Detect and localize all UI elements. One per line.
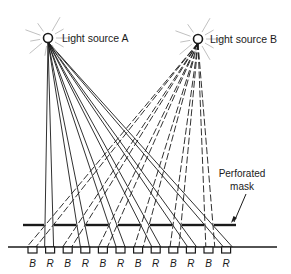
glow-ray bbox=[52, 17, 60, 31]
glow-ray bbox=[202, 46, 210, 60]
phosphor-r bbox=[46, 247, 55, 253]
phosphor-b bbox=[63, 247, 72, 253]
glow-ray bbox=[38, 23, 44, 31]
glow-ray bbox=[202, 18, 210, 32]
glow-ray bbox=[180, 40, 190, 42]
ray-b bbox=[72, 43, 198, 247]
phosphor-label: B bbox=[170, 258, 177, 269]
light-source-a-label: Light source A bbox=[62, 32, 129, 44]
ray-b bbox=[198, 43, 206, 247]
phosphor-r bbox=[151, 247, 160, 253]
phosphor-b bbox=[98, 247, 107, 253]
phosphor-label: R bbox=[187, 258, 194, 269]
glow-ray bbox=[25, 30, 40, 35]
phosphor-label: R bbox=[222, 258, 229, 269]
light-source-a: Light source A bbox=[25, 17, 128, 59]
ray-b bbox=[143, 43, 198, 247]
glow-ray bbox=[45, 46, 47, 56]
light-source-a-icon bbox=[44, 34, 53, 43]
glow-ray bbox=[175, 31, 190, 36]
phosphor-b bbox=[204, 247, 213, 253]
ray-b bbox=[98, 43, 198, 247]
glow-ray bbox=[30, 39, 40, 41]
phosphor-r bbox=[81, 247, 90, 253]
light-source-b-icon bbox=[194, 35, 203, 44]
ray-a bbox=[45, 42, 48, 247]
mask-label-line1: Perforated bbox=[219, 168, 266, 179]
phosphor-label: R bbox=[152, 258, 159, 269]
perforated-mask-callout: Perforated mask bbox=[219, 168, 266, 223]
glow-ray bbox=[188, 24, 194, 32]
shadow-mask-diagram: Light source A Light source B Perforated… bbox=[0, 0, 291, 274]
phosphor-b bbox=[28, 247, 37, 253]
phosphor-label: B bbox=[205, 258, 212, 269]
ray-b bbox=[198, 43, 215, 247]
phosphor-r bbox=[186, 247, 195, 253]
phosphor-labels: BRBRBRBRBRBR bbox=[29, 258, 230, 269]
phosphor-dots bbox=[28, 247, 231, 253]
light-source-b-rays bbox=[27, 43, 215, 247]
phosphor-b bbox=[134, 247, 143, 253]
ray-b bbox=[107, 43, 198, 247]
phosphor-b bbox=[169, 247, 178, 253]
ray-a bbox=[48, 42, 116, 247]
ray-b bbox=[63, 43, 198, 247]
phosphor-label: R bbox=[82, 258, 89, 269]
phosphor-label: R bbox=[46, 258, 53, 269]
ray-b bbox=[134, 43, 198, 247]
phosphor-label: R bbox=[117, 258, 124, 269]
phosphor-label: B bbox=[135, 258, 142, 269]
mask-label-line2: mask bbox=[230, 181, 255, 192]
light-source-b-label: Light source B bbox=[210, 33, 277, 45]
phosphor-label: B bbox=[29, 258, 36, 269]
glow-ray bbox=[30, 43, 42, 53]
phosphor-label: B bbox=[100, 258, 107, 269]
phosphor-label: B bbox=[64, 258, 71, 269]
phosphor-r bbox=[222, 247, 231, 253]
phosphor-r bbox=[116, 247, 125, 253]
ray-a bbox=[48, 42, 223, 247]
ray-a bbox=[48, 42, 152, 247]
